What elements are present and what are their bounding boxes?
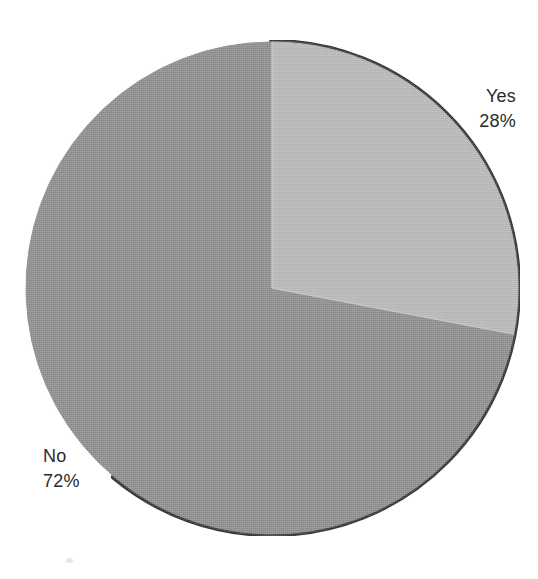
scan-artifact-speck [66, 558, 73, 563]
slice-label-no-name: No [43, 444, 80, 469]
slice-label-yes-name: Yes [479, 84, 516, 109]
pie-chart-plot-area [24, 40, 520, 536]
pie-chart-svg [24, 40, 520, 536]
slice-label-no: No 72% [43, 444, 80, 494]
pie-chart-figure: Yes 28% No 72% [0, 0, 538, 579]
slice-label-yes: Yes 28% [479, 84, 516, 134]
slice-label-no-value: 72% [43, 469, 80, 494]
slice-label-yes-value: 28% [479, 109, 516, 134]
